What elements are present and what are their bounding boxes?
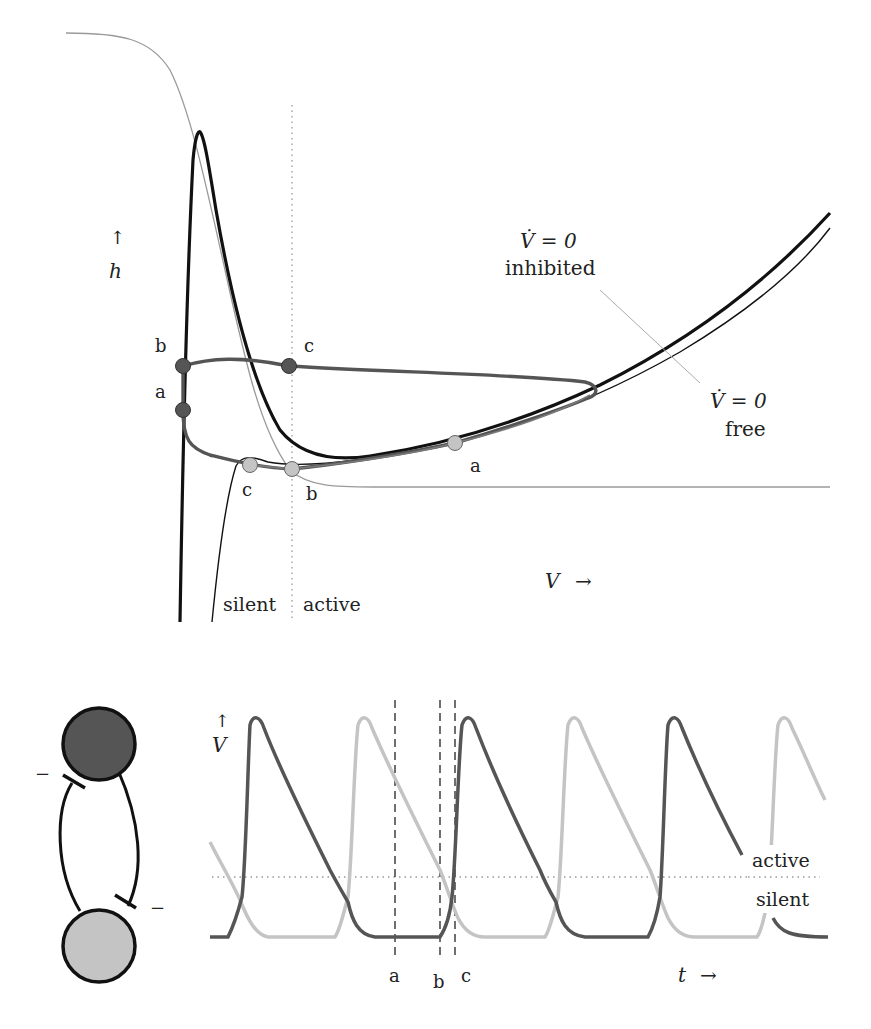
dark-neuron bbox=[63, 708, 135, 780]
synapse-top-to-bottom bbox=[118, 770, 138, 906]
sign-top: − bbox=[35, 763, 50, 784]
light-point-c-label: c bbox=[242, 479, 252, 500]
v-trace-axis-label: V bbox=[212, 733, 229, 757]
voltage-traces: active silent ↑ V t → a b c bbox=[210, 700, 828, 992]
dark-point-b-label: b bbox=[155, 335, 167, 356]
v-axis-label: V bbox=[545, 569, 562, 593]
active-label: active bbox=[752, 849, 810, 871]
silent-label: silent bbox=[756, 888, 809, 910]
phase-plane: b a c c b a ↑ h V → silent active V̇ = 0… bbox=[66, 33, 830, 622]
dark-point-a bbox=[176, 403, 191, 418]
dark-point-c-label: c bbox=[304, 335, 314, 356]
sign-bottom: − bbox=[150, 897, 165, 918]
light-point-b-label: b bbox=[306, 483, 318, 504]
region-silent-label: silent bbox=[223, 593, 276, 615]
figure: b a c c b a ↑ h V → silent active V̇ = 0… bbox=[0, 0, 871, 1029]
free-nullcline-eq: V̇ = 0 bbox=[710, 389, 767, 413]
t-axis-arrow: → bbox=[700, 963, 717, 987]
network-diagram: − − bbox=[35, 708, 165, 982]
h-axis-label: h bbox=[109, 259, 122, 283]
h-axis-arrow: ↑ bbox=[110, 227, 125, 248]
dark-point-a-label: a bbox=[155, 381, 166, 402]
light-neuron bbox=[63, 910, 135, 982]
h-nullcline bbox=[66, 33, 830, 487]
inhibited-nullcline-name: inhibited bbox=[505, 256, 596, 280]
marker-a-label: a bbox=[389, 965, 400, 986]
synapse-bottom-to-top bbox=[60, 783, 80, 911]
dark-point-c bbox=[282, 359, 297, 374]
dark-voltage-trace-end bbox=[773, 918, 828, 937]
t-axis-label: t bbox=[678, 963, 687, 987]
dark-point-b bbox=[176, 359, 191, 374]
marker-c-label: c bbox=[461, 965, 471, 986]
v-trace-axis-arrow: ↑ bbox=[215, 711, 229, 731]
light-point-b bbox=[285, 462, 300, 477]
region-active-label: active bbox=[303, 593, 361, 615]
light-point-a-label: a bbox=[470, 455, 481, 476]
marker-b-label: b bbox=[433, 971, 445, 992]
light-point-c bbox=[243, 458, 258, 473]
free-nullcline-name: free bbox=[725, 417, 766, 441]
v-axis-arrow: → bbox=[575, 569, 592, 593]
light-trajectory bbox=[250, 395, 590, 469]
light-point-a bbox=[448, 436, 463, 451]
inhibited-nullcline-eq: V̇ = 0 bbox=[520, 229, 577, 253]
